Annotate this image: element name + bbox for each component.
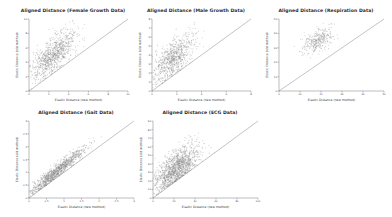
scatter-panel: Aligned Distance (Male Growth Data)02468… [135, 8, 257, 108]
x-axis-label: Elastic Distance (new method) [279, 99, 384, 102]
x-tick-label: 0 [278, 93, 280, 96]
plot-area [153, 121, 258, 198]
x-axis-label: Elastic Distance (new method) [29, 99, 128, 102]
plot-area [152, 19, 251, 91]
x-axis-label: Elastic Distance (new method) [29, 206, 134, 209]
x-tick-label: 2.5 [115, 200, 119, 203]
x-tick-label: 10 [298, 93, 301, 96]
x-tick-label: 6 [225, 93, 227, 96]
x-tick-label: 0 [152, 200, 154, 203]
plot-area [29, 19, 128, 91]
x-tick-label: 3 [133, 200, 135, 203]
x-tick-label: 100 [256, 200, 261, 203]
plot-canvas [29, 121, 134, 198]
identity-reference-line [279, 19, 384, 91]
scatter-panel: Aligned Distance (ECG Data)0204060801000… [136, 110, 264, 215]
plot-canvas [153, 121, 258, 198]
plot-canvas [279, 19, 384, 91]
x-tick-label: 10 [126, 93, 129, 96]
x-tick-label: 80 [235, 200, 238, 203]
x-tick-label: 20 [319, 93, 322, 96]
figure-scatter-grid: Aligned Distance (Female Growth Data)024… [0, 0, 392, 217]
x-tick-label: 2 [176, 93, 178, 96]
x-tick-label: 0.5 [45, 200, 49, 203]
identity-reference-line [152, 19, 251, 91]
plot-area [279, 19, 384, 91]
x-tick-label: 20 [172, 200, 175, 203]
x-tick-label: 60 [214, 200, 217, 203]
y-axis-label: Elastic Distance (old method) [266, 19, 269, 91]
x-tick-label: 2 [98, 200, 100, 203]
y-axis-label: Elastic Distance (old method) [140, 121, 143, 198]
scatter-points [294, 23, 339, 59]
x-tick-label: 0 [151, 93, 153, 96]
scatter-points [29, 20, 86, 90]
x-tick-label: 1 [63, 200, 65, 203]
scatter-panel: Aligned Distance (Female Growth Data)024… [12, 8, 134, 108]
x-axis-label: Elastic Distance (new method) [153, 206, 258, 209]
x-tick-label: 2 [48, 93, 50, 96]
x-tick-label: 6 [88, 93, 90, 96]
y-axis-label: Elastic Distance (old method) [16, 121, 19, 198]
plot-area [29, 121, 134, 198]
scatter-panel: Aligned Distance (Gait Data)00.511.522.5… [12, 110, 140, 215]
x-tick-label: 40 [361, 93, 364, 96]
x-tick-label: 4 [68, 93, 70, 96]
y-axis-label: Elastic Distance (old method) [16, 19, 19, 91]
x-axis-label: Elastic Distance (new method) [152, 99, 251, 102]
scatter-points [152, 132, 215, 196]
x-tick-label: 30 [340, 93, 343, 96]
plot-canvas [29, 19, 128, 91]
x-tick-label: 8 [107, 93, 109, 96]
y-axis-label: Elastic Distance (old method) [139, 19, 142, 91]
panel-title: Aligned Distance (Respiration Data) [262, 8, 390, 14]
plot-canvas [152, 19, 251, 91]
x-tick-label: 4 [201, 93, 203, 96]
scatter-points [152, 22, 205, 89]
panel-title: Aligned Distance (Female Growth Data) [12, 8, 134, 14]
x-tick-label: 0 [28, 93, 30, 96]
panel-title: Aligned Distance (Gait Data) [12, 110, 140, 116]
x-tick-label: 40 [193, 200, 196, 203]
panel-title: Aligned Distance (ECG Data) [136, 110, 264, 116]
panel-title: Aligned Distance (Male Growth Data) [135, 8, 257, 14]
x-tick-label: 1.5 [80, 200, 84, 203]
scatter-panel: Aligned Distance (Respiration Data)01020… [262, 8, 390, 108]
scatter-points [29, 136, 102, 198]
x-tick-label: 0 [28, 200, 30, 203]
x-tick-label: 8 [250, 93, 252, 96]
x-tick-label: 50 [382, 93, 385, 96]
